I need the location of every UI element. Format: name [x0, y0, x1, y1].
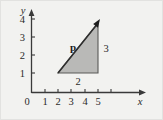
base-length-label: 2: [75, 76, 80, 87]
x-axis-arrowhead: [139, 90, 146, 96]
vector-p-arrowhead: [93, 19, 100, 28]
coordinate-plot: 4 3 2 1 0 1 2 3 4 5 y x p 2 3: [1, 1, 163, 120]
x-tick-label-3: 3: [68, 96, 73, 107]
x-tick-label-5: 5: [95, 96, 100, 107]
x-tick-label-1: 1: [42, 96, 47, 107]
x-tick-label-2: 2: [55, 96, 60, 107]
y-tick-label-3: 3: [20, 32, 25, 43]
y-tick-label-2: 2: [20, 50, 25, 61]
vector-p-label: p: [70, 41, 76, 53]
vector-diagram-figure: 4 3 2 1 0 1 2 3 4 5 y x p 2 3: [0, 0, 163, 120]
height-length-label: 3: [103, 43, 108, 54]
y-axis-arrowhead: [29, 9, 35, 16]
y-axis-label: y: [20, 5, 26, 16]
y-tick-label-1: 1: [20, 68, 25, 79]
x-tick-label-4: 4: [82, 96, 88, 107]
origin-label: 0: [24, 96, 29, 107]
x-axis-label: x: [137, 96, 143, 107]
